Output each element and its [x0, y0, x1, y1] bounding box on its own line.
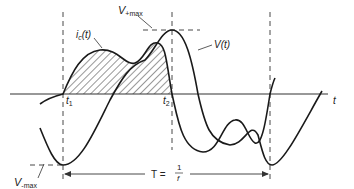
v-minus-max-label: V-max [14, 176, 37, 189]
v-plus-max-leader [138, 16, 152, 28]
t1-label: t1 [66, 95, 73, 107]
arrow-right-head-icon [262, 171, 269, 177]
v-plus-max-label: V+max [118, 4, 143, 17]
voltage-curve [40, 30, 322, 165]
v-minus-max-leader [38, 164, 44, 178]
vt-label: V(t) [214, 39, 230, 50]
arrow-left-head-icon [64, 171, 71, 177]
ic-label: ic(t) [76, 29, 91, 41]
ic-leader [94, 38, 102, 48]
period-denominator: f [177, 174, 180, 183]
time-axis-label: t [333, 95, 337, 106]
period-label: T = [151, 169, 166, 180]
vt-leader [198, 45, 212, 50]
waveform-diagram: V+max V-max ic(t) V(t) t1 t2 t T = 1 f [0, 0, 354, 189]
period-numerator: 1 [177, 163, 182, 172]
t2-label: t2 [163, 95, 170, 107]
